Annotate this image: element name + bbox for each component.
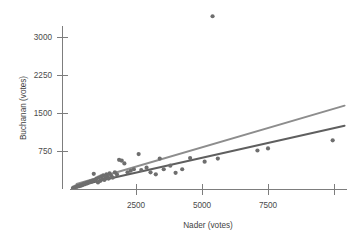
y-axis-title: Buchanan (votes) <box>19 76 28 140</box>
data-point <box>154 172 158 176</box>
scatter-plot-figure: 250050007500 Nader (votes) 7501500225030… <box>0 0 362 242</box>
data-point <box>132 167 136 171</box>
x-tick-label-5000: 5000 <box>193 201 212 210</box>
data-point <box>148 170 152 174</box>
y-tick-label-1500: 1500 <box>34 109 53 118</box>
regression-line-regression-without-outlier <box>77 126 345 186</box>
x-axis-tick-labels: 250050007500 <box>127 201 278 210</box>
data-point <box>139 168 143 172</box>
data-point <box>115 172 119 176</box>
x-axis: 250050007500 Nader (votes) <box>70 184 347 230</box>
data-point <box>162 167 166 171</box>
x-tick-label-2500: 2500 <box>127 201 146 210</box>
data-point <box>255 148 259 152</box>
x-tick-label-7500: 7500 <box>259 201 278 210</box>
data-point <box>122 161 126 165</box>
data-point <box>188 156 192 160</box>
data-point <box>158 157 162 161</box>
y-axis-tick-labels: 750150022503000 <box>34 33 53 156</box>
data-point <box>203 160 207 164</box>
y-tick-label-2250: 2250 <box>34 71 53 80</box>
x-axis-title: Nader (votes) <box>183 221 233 230</box>
data-point <box>174 171 178 175</box>
data-point <box>168 164 172 168</box>
data-point <box>216 157 220 161</box>
data-point <box>180 167 184 171</box>
data-point <box>92 172 96 176</box>
data-point <box>111 176 115 180</box>
y-tick-label-750: 750 <box>38 147 52 156</box>
y-tick-label-3000: 3000 <box>34 33 53 42</box>
data-point <box>266 146 270 150</box>
data-point <box>210 14 214 18</box>
data-points-group <box>71 14 335 190</box>
data-point <box>331 138 335 142</box>
data-point <box>137 152 141 156</box>
plot-canvas: 250050007500 Nader (votes) 7501500225030… <box>0 0 362 242</box>
data-point <box>144 166 148 170</box>
y-axis: 750150022503000 Buchanan (votes) <box>19 26 68 189</box>
